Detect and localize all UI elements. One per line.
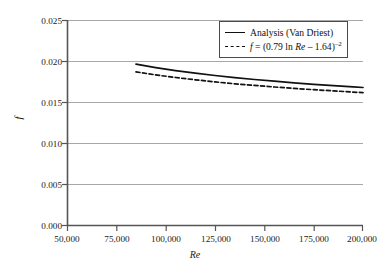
y-axis-ticks [62,21,67,226]
legend-item-correlation: f = (0.79 ln Re – 1.64)–2 [225,39,342,53]
legend-formula-exponent: –2 [335,40,342,48]
legend-solid-line-icon [225,27,245,37]
x-tick-label: 125,000 [201,234,231,244]
x-tick-label: 50,000 [54,234,79,244]
legend-label: Analysis (Van Driest) [250,27,333,38]
legend-formula-re: Re [295,42,305,53]
chart-legend: Analysis (Van Driest) f = (0.79 ln Re – … [219,21,348,58]
legend-dashed-line-icon [225,41,245,51]
series-analysis-van-driest [136,64,363,87]
x-tick-label: 200,000 [347,234,377,244]
chart-figure: 0.025 0.020 0.015 0.010 0.005 0.000 f [0,0,390,271]
x-tick-label: 75,000 [104,234,129,244]
series-correlation [136,72,363,93]
x-axis-title: Re [0,249,390,260]
x-axis-ticks [68,226,363,231]
data-curves [136,64,363,92]
x-tick-label: 100,000 [151,234,181,244]
legend-item-analysis: Analysis (Van Driest) [225,25,342,39]
legend-formula-equals: = (0.79 ln [253,42,295,53]
legend-formula-suffix: – 1.64) [305,42,335,53]
x-tick-label: 175,000 [299,234,329,244]
x-tick-label: 150,000 [250,234,280,244]
legend-label-formula: f = (0.79 ln Re – 1.64)–2 [250,39,342,52]
